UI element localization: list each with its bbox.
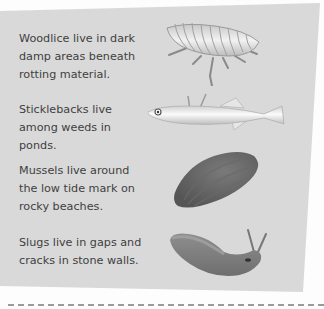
stickleback-fish-icon	[148, 92, 288, 134]
dashed-divider	[8, 304, 324, 306]
mussels-text: Mussels live around the low tide mark on…	[19, 162, 149, 216]
woodlice-text: Woodlice live in dark damp areas beneath…	[19, 30, 149, 84]
slug-icon	[168, 226, 276, 280]
sticklebacks-text: Sticklebacks live among weeds in ponds.	[19, 101, 149, 155]
woodlouse-icon	[165, 18, 265, 86]
slugs-text: Slugs live in gaps and cracks in stone w…	[19, 234, 149, 270]
mussel-shell-icon	[170, 150, 262, 208]
